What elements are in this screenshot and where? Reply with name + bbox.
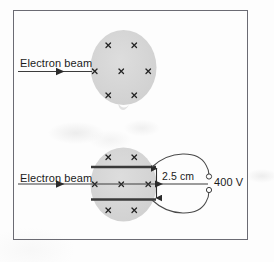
plate-separation-label: 2.5 cm [162,170,194,182]
supply-terminals [206,174,211,193]
electron-beam-label-lower: Electron beam [20,172,92,184]
electron-beam-label-upper: Electron beam [20,57,92,69]
supply-voltage-label: 400 V [214,176,243,188]
terminal-positive [206,174,211,179]
schematic-drawing [0,0,274,262]
terminal-negative [206,187,211,192]
figure-canvas: Electron beam Electron beam 2.5 cm 400 V [0,0,274,262]
